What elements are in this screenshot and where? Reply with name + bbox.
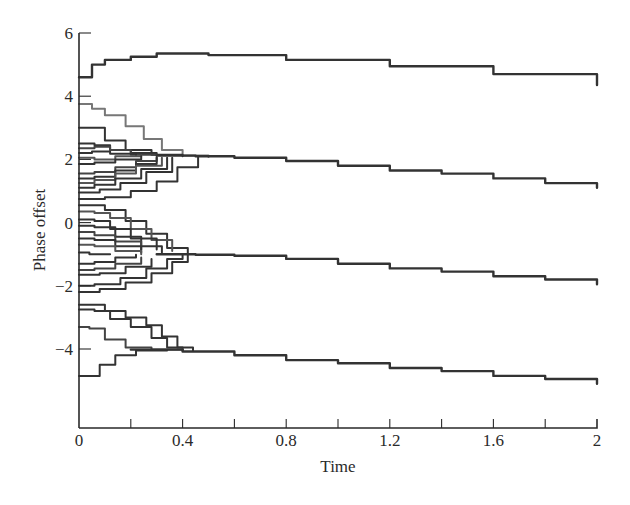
y-tick-label: 4 [65, 87, 74, 106]
x-tick-label: 0 [75, 431, 84, 450]
trajectory-c4-d [79, 350, 167, 376]
trajectory-c4-b [79, 310, 183, 351]
trajectory-c3-m [79, 255, 188, 292]
trajectory-lines [79, 54, 597, 384]
y-tick-label: 6 [65, 24, 74, 43]
x-tick-label: 1.6 [483, 431, 504, 450]
trajectory-c3-main [157, 254, 597, 284]
trajectory-c3-i [79, 255, 136, 264]
y-tick-label: 0 [65, 214, 74, 233]
x-tick-label: 0.8 [276, 431, 297, 450]
y-tick-label: −4 [55, 340, 74, 359]
trajectory-c2-main [157, 156, 597, 188]
x-ticks: 00.40.81.21.62 [75, 419, 602, 450]
trajectory-c4-main [131, 350, 597, 384]
x-tick-label: 0.4 [172, 431, 194, 450]
y-axis-title: Phase offset [30, 189, 49, 272]
trajectory-c2-e [79, 152, 136, 156]
y-tick-label: 2 [65, 150, 74, 169]
phase-offset-chart: 6420−2−4 00.40.81.21.62 Time Phase offse… [0, 0, 630, 505]
x-tick-label: 1.2 [379, 431, 400, 450]
trajectory-top [79, 54, 597, 86]
x-axis-title: Time [320, 457, 355, 476]
trajectory-c3-h [79, 253, 110, 255]
y-tick-label: −2 [55, 277, 73, 296]
x-tick-label: 2 [593, 431, 602, 450]
